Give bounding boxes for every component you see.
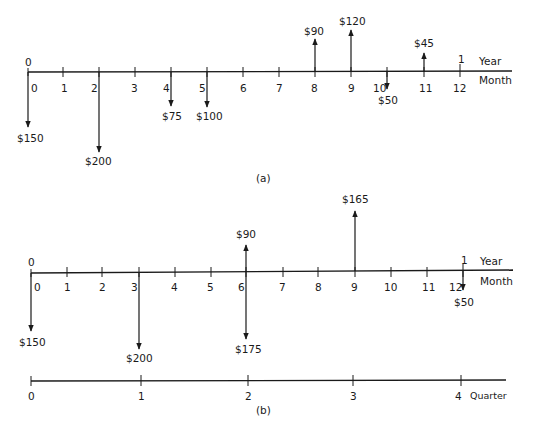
- amount-label: $120: [339, 15, 366, 27]
- tick-label: 2: [99, 281, 106, 293]
- amount-label: $150: [17, 132, 44, 144]
- diagram-b: 0 1 Year Month 0 1 2 3 4 5 6 7 8 9 10 11…: [19, 193, 513, 416]
- cash-flow-diagrams: 0 1 Year Month 0 1 2 3 4 5 6 7 8 9 10 11…: [0, 0, 543, 430]
- cash-flow-arrows: $150 $200 $90 $175 $165 $50: [19, 193, 474, 364]
- month-axis-label: Month: [479, 74, 512, 86]
- tick-label: 9: [348, 82, 355, 94]
- tick-label: 2: [245, 390, 252, 402]
- tick-label: 6: [238, 281, 245, 293]
- tick-label: 3: [131, 82, 138, 94]
- tick-label: 7: [276, 82, 283, 94]
- tick-label: 2: [91, 82, 98, 94]
- tick-label: 6: [240, 82, 247, 94]
- month-ticks: [28, 64, 460, 77]
- amount-label: $165: [342, 193, 369, 205]
- quarter-axis-label: Quarter: [470, 390, 507, 401]
- tick-label: 3: [350, 390, 357, 402]
- tick-label: 5: [199, 82, 206, 94]
- month-tick-labels: 0 1 2 3 4 5 6 7 8 9 10 11 12: [34, 281, 462, 293]
- tick-label: 5: [207, 281, 214, 293]
- amount-label: $50: [454, 296, 474, 308]
- month-tick-labels: 0 1 2 3 4 5 6 7 8 9 10 11 12: [31, 82, 466, 94]
- tick-label: 1: [64, 281, 71, 293]
- quarter-axis: [31, 380, 506, 381]
- amount-label: $200: [85, 155, 112, 167]
- tick-label: 0: [31, 82, 38, 94]
- year-start-label: 0: [25, 56, 32, 68]
- month-axis-label: Month: [480, 275, 513, 287]
- tick-label: 7: [279, 281, 286, 293]
- tick-label: 4: [455, 390, 462, 402]
- amount-label: $90: [236, 228, 256, 240]
- tick-label: 3: [131, 281, 138, 293]
- tick-label: 4: [163, 82, 170, 94]
- amount-label: $75: [162, 110, 182, 122]
- amount-label: $100: [196, 110, 223, 122]
- tick-label: 0: [34, 281, 41, 293]
- tick-label: 12: [449, 281, 462, 293]
- quarter-tick-labels: 0 1 2 3 4: [28, 390, 462, 402]
- tick-label: 11: [422, 281, 435, 293]
- tick-label: 1: [61, 82, 68, 94]
- amount-label: $50: [378, 94, 398, 106]
- tick-label: 0: [28, 390, 35, 402]
- tick-label: 1: [138, 390, 145, 402]
- amount-label: $150: [19, 336, 46, 348]
- year-start-label: 0: [28, 256, 35, 268]
- year-end-label: 1: [461, 254, 468, 266]
- tick-label: 11: [419, 82, 432, 94]
- tick-label: 10: [384, 281, 397, 293]
- cash-flow-arrows: $150 $200 $75 $100 $90 $120 $50 $45: [17, 15, 434, 167]
- timeline-axis: [31, 270, 513, 273]
- timeline-axis: [28, 71, 512, 72]
- caption-b: (b): [256, 404, 271, 416]
- amount-label: $90: [304, 25, 324, 37]
- year-axis-label: Year: [478, 55, 502, 67]
- amount-label: $45: [414, 37, 434, 49]
- tick-label: 10: [373, 82, 386, 94]
- tick-label: 9: [351, 281, 358, 293]
- tick-label: 8: [315, 281, 322, 293]
- amount-label: $200: [126, 352, 153, 364]
- tick-label: 12: [453, 82, 466, 94]
- year-axis-label: Year: [479, 255, 503, 267]
- diagram-a: 0 1 Year Month 0 1 2 3 4 5 6 7 8 9 10 11…: [17, 15, 512, 184]
- tick-label: 4: [171, 281, 178, 293]
- year-end-label: 1: [458, 53, 465, 65]
- amount-label: $175: [235, 343, 262, 355]
- caption-a: (a): [256, 172, 271, 184]
- tick-label: 8: [311, 82, 318, 94]
